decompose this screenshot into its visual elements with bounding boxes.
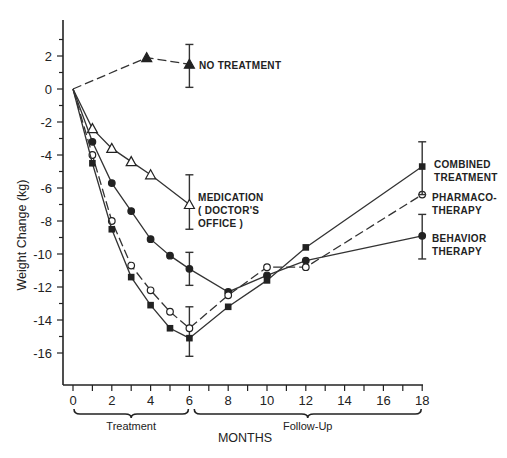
open-triangle-marker-icon <box>126 157 136 166</box>
y-axis-label: Weight Change (kg) <box>15 180 29 291</box>
x-tick-label: 16 <box>376 393 390 408</box>
label-no-treatment: NO TREATMENT <box>199 60 281 71</box>
open-circle-marker-icon <box>147 287 154 294</box>
x-tick-label: 18 <box>415 393 429 408</box>
y-tick-label: -8 <box>40 214 52 229</box>
label-pharmacotherapy: THERAPY <box>432 205 482 216</box>
open-triangle-marker-icon <box>184 200 194 209</box>
filled-circle-marker-icon <box>128 208 135 215</box>
filled-circle-marker-icon <box>167 252 174 259</box>
weight-change-chart: 20-2-4-6-8-10-12-14-16024681012141618Tre… <box>0 0 507 458</box>
filled-triangle-marker-icon <box>142 53 152 62</box>
label-medication: ( DOCTOR'S <box>198 205 259 216</box>
y-tick-label: -6 <box>40 181 52 196</box>
open-circle-marker-icon <box>186 325 193 332</box>
filled-square-marker-icon <box>147 302 154 309</box>
label-behavior-therapy: THERAPY <box>432 246 482 257</box>
label-combined-treatment: TREATMENT <box>434 172 498 183</box>
filled-circle-marker-icon <box>89 139 96 146</box>
open-circle-marker-icon <box>167 308 174 315</box>
series-no-treatment <box>73 44 194 89</box>
x-tick-label: 12 <box>299 393 313 408</box>
x-tick-label: 6 <box>186 393 193 408</box>
filled-square-marker-icon <box>128 274 135 281</box>
filled-square-marker-icon <box>109 226 116 233</box>
y-tick-label: -10 <box>33 247 52 262</box>
y-tick-label: -12 <box>33 280 52 295</box>
x-tick-label: 2 <box>108 393 115 408</box>
phase-bracket <box>74 409 188 418</box>
filled-circle-marker-icon <box>109 180 116 187</box>
filled-circle-marker-icon <box>419 233 426 240</box>
open-triangle-marker-icon <box>146 170 156 179</box>
series-labels: NO TREATMENTMEDICATION( DOCTOR'SOFFICE )… <box>198 60 498 257</box>
filled-square-marker-icon <box>225 304 232 311</box>
y-tick-label: -4 <box>40 148 52 163</box>
label-behavior-therapy: BEHAVIOR <box>432 233 487 244</box>
x-tick-label: 0 <box>69 393 76 408</box>
label-medication: OFFICE ) <box>198 218 243 229</box>
filled-square-marker-icon <box>89 160 96 167</box>
filled-circle-marker-icon <box>303 257 310 264</box>
phase-label: Follow-Up <box>283 420 333 432</box>
open-circle-marker-icon <box>264 264 271 271</box>
series-pharmacotherapy <box>73 89 426 356</box>
x-tick-label: 4 <box>147 393 154 408</box>
y-tick-label: 0 <box>45 82 52 97</box>
y-tick-label: 2 <box>45 49 52 64</box>
phase-bracket <box>194 409 421 418</box>
filled-square-marker-icon <box>186 335 193 342</box>
filled-circle-marker-icon <box>186 266 193 273</box>
y-tick-label: -16 <box>33 346 52 361</box>
open-circle-marker-icon <box>128 262 135 269</box>
y-tick-label: -2 <box>40 115 52 130</box>
phase-label: Treatment <box>106 420 156 432</box>
filled-square-marker-icon <box>303 244 310 251</box>
label-pharmacotherapy: PHARMACO- <box>432 192 497 203</box>
label-combined-treatment: COMBINED <box>434 159 491 170</box>
y-tick-label: -14 <box>33 313 52 328</box>
series-line <box>73 58 189 89</box>
open-circle-marker-icon <box>225 292 232 299</box>
x-tick-label: 10 <box>260 393 274 408</box>
filled-square-marker-icon <box>264 277 271 284</box>
label-medication: MEDICATION <box>198 192 264 203</box>
x-axis-label: MONTHS <box>218 431 272 445</box>
filled-circle-marker-icon <box>147 236 154 243</box>
filled-square-marker-icon <box>419 163 426 170</box>
open-circle-marker-icon <box>303 264 310 271</box>
filled-square-marker-icon <box>167 325 174 332</box>
x-tick-label: 14 <box>337 393 351 408</box>
x-tick-label: 8 <box>225 393 232 408</box>
